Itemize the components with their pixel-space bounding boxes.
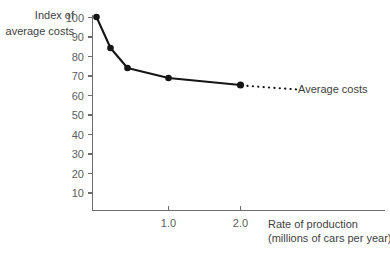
y-axis-title-line1: Index of xyxy=(35,9,75,21)
y-tick-label-20: 20 xyxy=(72,168,84,180)
data-point-2 xyxy=(107,45,114,52)
y-tick-label-70: 70 xyxy=(72,70,84,82)
y-tick-label-30: 30 xyxy=(72,148,84,160)
data-point-4 xyxy=(165,75,172,82)
x-axis-title-line1: Rate of production xyxy=(268,218,358,230)
y-tick-label-60: 60 xyxy=(72,90,84,102)
chart-figure: 100 90 80 70 60 50 40 30 20 10 1.0 2.0 I… xyxy=(0,0,390,254)
y-tick-label-40: 40 xyxy=(72,129,84,141)
x-axis-title-line2: (millions of cars per year) xyxy=(268,232,390,244)
y-tick-label-10: 10 xyxy=(72,187,84,199)
y-tick-label-80: 80 xyxy=(72,51,84,63)
y-axis-title-line2: average costs xyxy=(6,25,75,37)
data-point-5 xyxy=(237,81,244,88)
average-cost-curve-chart: 100 90 80 70 60 50 40 30 20 10 1.0 2.0 I… xyxy=(0,0,390,254)
x-tick-label-2: 2.0 xyxy=(233,217,248,229)
data-point-3 xyxy=(124,65,131,72)
chart-background xyxy=(0,0,390,254)
y-tick-label-50: 50 xyxy=(72,109,84,121)
data-point-1 xyxy=(93,14,100,21)
x-tick-label-1: 1.0 xyxy=(161,217,176,229)
series-annotation-average-costs: Average costs xyxy=(298,83,368,95)
